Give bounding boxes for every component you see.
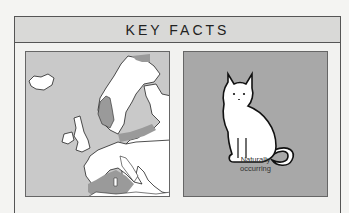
caption-line-2: occurring <box>184 164 327 173</box>
cat-icon <box>184 52 328 197</box>
caption-line-1: Naturally <box>184 155 327 164</box>
key-facts-box: KEY FACTS <box>14 16 341 213</box>
cat-illustration-panel: Naturally occurring <box>183 51 328 197</box>
header-title: KEY FACTS <box>126 22 230 38</box>
cat-caption: Naturally occurring <box>184 155 327 173</box>
europe-map-icon <box>26 52 170 197</box>
distribution-map-panel <box>25 51 170 197</box>
key-facts-header: KEY FACTS <box>15 17 340 43</box>
